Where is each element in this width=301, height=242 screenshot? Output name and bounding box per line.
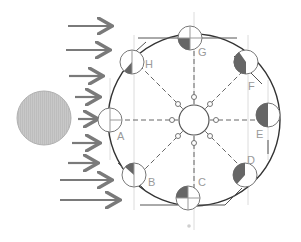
observer-icon xyxy=(192,141,197,146)
observer-icon xyxy=(170,118,175,123)
moon-phases-diagram: A B C D E F G H xyxy=(0,0,301,242)
moon-f xyxy=(234,50,258,74)
moon-a xyxy=(98,108,122,132)
label-a: A xyxy=(117,130,125,142)
label-d: D xyxy=(247,154,255,166)
moon-e xyxy=(256,103,280,127)
observer-icon xyxy=(176,134,181,139)
moon-b xyxy=(122,163,146,187)
observer-icon xyxy=(214,118,219,123)
observer-icon xyxy=(208,134,213,139)
observer-icon xyxy=(176,102,181,107)
label-e: E xyxy=(256,128,263,140)
label-c: C xyxy=(198,176,206,188)
sun xyxy=(17,91,71,145)
observer-icon xyxy=(192,95,197,100)
moon-c xyxy=(176,186,200,210)
label-b: B xyxy=(148,176,155,188)
moon-h xyxy=(120,50,144,74)
label-f: F xyxy=(248,80,255,92)
observer-icon xyxy=(208,102,213,107)
moon-d xyxy=(233,163,257,187)
bottom-dot xyxy=(187,224,191,228)
label-h: H xyxy=(145,58,153,70)
label-g: G xyxy=(198,46,207,58)
